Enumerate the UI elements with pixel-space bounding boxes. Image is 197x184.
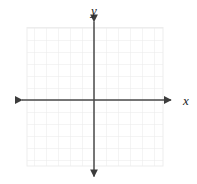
grid-group (27, 28, 163, 167)
grid-lines (27, 28, 163, 167)
y-axis-label: y (89, 3, 97, 18)
coordinate-plane-figure: y x (0, 0, 197, 184)
x-axis-label: x (182, 93, 189, 108)
coordinate-plane-svg: y x (0, 0, 197, 184)
